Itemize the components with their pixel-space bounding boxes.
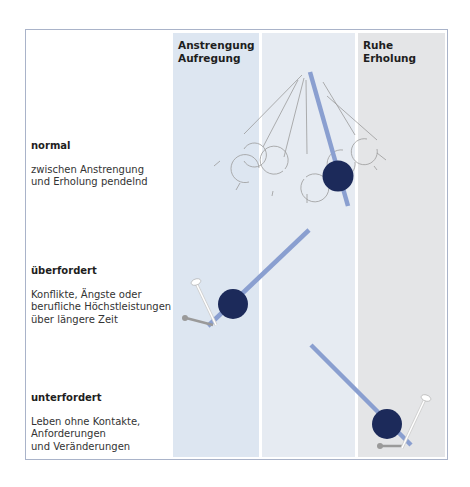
pendulum-unterfordert — [311, 345, 432, 449]
pendulum-bob-ueberfordert — [218, 289, 248, 319]
pendulum-ghost-swings — [214, 75, 386, 203]
pendulum-bob-normal — [323, 161, 354, 192]
pendulum-ueberfordert — [182, 230, 309, 326]
pendulum-illustration — [0, 0, 470, 487]
pendulum-bob-unterfordert — [372, 409, 402, 439]
